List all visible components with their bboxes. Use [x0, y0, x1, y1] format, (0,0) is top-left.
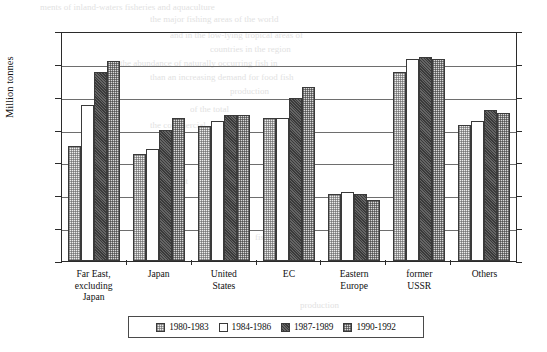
legend-swatch-icon — [219, 323, 228, 332]
bar[interactable] — [94, 72, 107, 261]
legend-label: 1987-1989 — [294, 322, 333, 332]
legend-swatch-icon — [281, 323, 290, 332]
x-axis-category-label: United States — [191, 268, 256, 303]
x-axis-category-label: Far East, excluding Japan — [61, 268, 126, 303]
bar[interactable] — [419, 57, 432, 261]
bar-group — [321, 33, 386, 261]
bar[interactable] — [276, 118, 289, 261]
legend-item[interactable]: 1980-1983 — [156, 322, 208, 332]
x-axis-category-label: Eastern Europe — [322, 268, 387, 303]
bar[interactable] — [471, 121, 484, 261]
bar-groups — [62, 33, 516, 261]
bar-group — [257, 33, 322, 261]
bar[interactable] — [133, 154, 146, 261]
legend-item[interactable]: 1987-1989 — [281, 322, 333, 332]
bar-group — [451, 33, 516, 261]
bar[interactable] — [484, 110, 497, 261]
bar-group — [192, 33, 257, 261]
x-axis-labels: Far East, excluding JapanJapanUnited Sta… — [61, 268, 517, 303]
legend-item[interactable]: 1990-1992 — [343, 322, 395, 332]
x-axis-category-label: former USSR — [387, 268, 452, 303]
legend-swatch-icon — [343, 323, 352, 332]
bar[interactable] — [237, 115, 250, 261]
bar-chart: Million tonnes 020406080100120140 Far Ea… — [0, 0, 547, 352]
legend-label: 1990-1992 — [356, 322, 395, 332]
bar[interactable] — [211, 121, 224, 261]
chart-legend: 1980-19831984-19861987-19891990-1992 — [128, 316, 424, 338]
bar[interactable] — [159, 130, 172, 261]
bar[interactable] — [302, 87, 315, 261]
bar[interactable] — [263, 118, 276, 261]
bar[interactable] — [367, 200, 380, 261]
y-tick-mark-right-0 — [516, 262, 522, 263]
legend-label: 1984-1986 — [232, 322, 271, 332]
plot-area — [61, 32, 517, 262]
bar[interactable] — [289, 98, 302, 261]
bar[interactable] — [198, 126, 211, 261]
y-tick-mark-0 — [55, 262, 62, 263]
y-axis-label: Million tonnes — [4, 56, 15, 118]
bar-group — [62, 33, 127, 261]
bar-group — [386, 33, 451, 261]
bar[interactable] — [172, 118, 185, 261]
x-axis-category-label: Others — [452, 268, 517, 303]
legend-item[interactable]: 1984-1986 — [219, 322, 271, 332]
bar[interactable] — [341, 192, 354, 261]
x-axis-category-label: EC — [256, 268, 321, 303]
bar[interactable] — [107, 61, 120, 261]
bar[interactable] — [354, 194, 367, 261]
bar-group — [127, 33, 192, 261]
x-axis-category-label: Japan — [126, 268, 191, 303]
bar[interactable] — [224, 115, 237, 261]
bar[interactable] — [146, 149, 159, 261]
bar[interactable] — [393, 72, 406, 261]
bar[interactable] — [497, 113, 510, 261]
bar[interactable] — [406, 59, 419, 261]
bar[interactable] — [81, 105, 94, 261]
bar[interactable] — [432, 59, 445, 261]
bar[interactable] — [68, 146, 81, 261]
legend-label: 1980-1983 — [169, 322, 208, 332]
bar[interactable] — [458, 125, 471, 261]
legend-swatch-icon — [156, 323, 165, 332]
bar[interactable] — [328, 194, 341, 261]
